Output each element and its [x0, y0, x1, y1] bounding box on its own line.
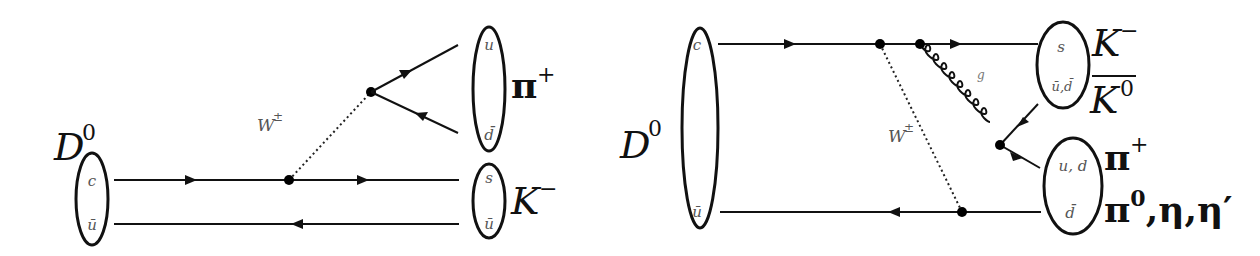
- w-boson-sup: ±: [904, 121, 914, 135]
- quark-line-dbar: [371, 92, 458, 133]
- k-minus-sup: −: [1120, 18, 1138, 43]
- k-minus-label: K: [1091, 21, 1123, 65]
- pi0-eta-label: π0,η,η′: [1104, 185, 1233, 230]
- gluon-line: [920, 44, 990, 122]
- pi-plus-sup: +: [537, 62, 555, 87]
- quark-ubar-dbar: ū,d̄: [1052, 78, 1075, 94]
- arrow-right-icon: [950, 39, 962, 49]
- arrow-icon: [399, 70, 412, 79]
- quark-line-d: [1000, 145, 1040, 168]
- arrow-icon: [1017, 117, 1029, 127]
- quark-u-d: u, d: [1059, 157, 1088, 175]
- k0bar-label: K: [1089, 78, 1121, 122]
- w-boson-sup: ±: [273, 110, 283, 124]
- arrow-right-icon: [185, 175, 197, 185]
- vertex: [284, 175, 294, 185]
- quark-ubar: ū: [87, 216, 97, 234]
- arrow-left-icon: [888, 207, 900, 217]
- w-boson-line: [289, 92, 371, 180]
- arrow-right-icon: [784, 39, 796, 49]
- vertex: [915, 39, 925, 49]
- gluon-label: g: [977, 68, 985, 82]
- d0-ellipse: [682, 28, 718, 228]
- k-minus-sup: −: [539, 176, 557, 201]
- pi-plus-label: π: [511, 64, 537, 106]
- arrow-icon: [415, 112, 428, 121]
- quark-ubar: ū: [692, 203, 702, 221]
- arrow-right-icon: [357, 175, 369, 185]
- vertex: [995, 140, 1005, 150]
- quark-dbar: d̄: [1065, 204, 1076, 222]
- quark-dbar: d̄: [484, 126, 495, 144]
- pi-plus-sup: +: [1130, 132, 1148, 157]
- initial-meson-sup: 0: [648, 116, 662, 141]
- quark-c: c: [88, 172, 97, 190]
- pi-plus-label: π: [1104, 136, 1130, 178]
- k-ellipse: [1037, 22, 1089, 108]
- arrow-left-icon: [291, 219, 303, 229]
- diagram-right: D 0 c ū W ± g s ū,d̄ K − K: [619, 18, 1233, 234]
- quark-u: u: [484, 36, 494, 54]
- k0bar-sup: 0: [1120, 76, 1134, 101]
- k-minus-label: K: [510, 179, 542, 223]
- initial-meson-label: D: [53, 125, 84, 169]
- quark-line-u: [371, 45, 458, 92]
- quark-s: s: [1057, 38, 1065, 56]
- initial-meson-sup: 0: [82, 120, 96, 145]
- initial-meson-label: D: [619, 123, 650, 167]
- quark-ubar: ū: [484, 215, 494, 233]
- feynman-diagrams: D 0 c ū W ± u d̄ π + s ū K −: [0, 0, 1260, 256]
- vertex: [957, 207, 967, 217]
- quark-s: s: [485, 169, 493, 187]
- quark-c: c: [693, 36, 702, 54]
- vertex: [875, 39, 885, 49]
- diagram-left: D 0 c ū W ± u d̄ π + s ū K −: [53, 27, 557, 245]
